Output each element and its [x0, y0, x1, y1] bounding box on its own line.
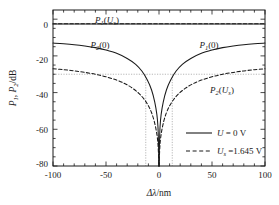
x-tick-labels: -100 -50 0 50 100	[45, 170, 273, 180]
p2-zero-arg: (0)	[99, 40, 110, 50]
p1-zero-arg: (0)	[208, 40, 219, 50]
curve-label-p2-us: P2(Us)	[209, 85, 234, 96]
x-tick-label-2: 0	[157, 170, 162, 180]
y-tick-label-3: -60	[36, 125, 48, 135]
x-tick-label-0: -100	[45, 170, 62, 180]
chart-svg: 0 -20 -40 -60 -80 -100 -50 0 50 100 Δλ/n…	[0, 0, 279, 205]
x-axis-unit: /nm	[156, 188, 171, 198]
x-axis-title: Δλ/nm	[146, 188, 172, 198]
x-tick-label-1: -50	[100, 170, 112, 180]
x-tick-label-4: 100	[258, 170, 272, 180]
x-tick-label-3: 50	[208, 170, 218, 180]
curve-label-p2-zero: P2(0)	[89, 40, 109, 51]
legend-label-solid: U = 0 V	[217, 128, 247, 138]
y-tick-label-1: -20	[36, 55, 48, 65]
p1-us-paren-close: )	[116, 15, 119, 25]
y-tick-labels: 0 -20 -40 -60 -80	[36, 20, 49, 169]
x-axis-symbol: Δλ	[146, 188, 157, 198]
y-tick-label-0: 0	[44, 20, 49, 30]
legend-row1-value: = 0 V	[224, 128, 247, 138]
curve-label-p1-zero: P1(0)	[198, 40, 218, 51]
curve-label-p1-us: P1(Us)	[94, 15, 119, 26]
y-axis-unit: /dB	[8, 70, 18, 84]
y-tick-label-2: -40	[36, 90, 48, 100]
p2-us-paren-close: )	[231, 85, 234, 95]
y-tick-label-4: -80	[36, 159, 48, 169]
legend-row2-value: =1.645 V	[226, 146, 263, 156]
figure-container: 0 -20 -40 -60 -80 -100 -50 0 50 100 Δλ/n…	[0, 0, 279, 205]
y-axis-title: P1, P2/dB	[8, 70, 19, 108]
